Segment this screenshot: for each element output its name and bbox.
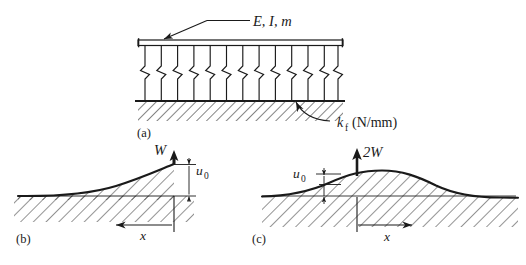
- stiffness-subscript: f: [345, 123, 349, 133]
- deflection-dimension-b: [174, 158, 196, 202]
- spring-element: [238, 46, 247, 102]
- spring-element: [206, 46, 215, 102]
- spring-element: [320, 46, 329, 102]
- axis-label-x-b: x: [139, 228, 146, 243]
- spring-element: [287, 46, 296, 102]
- panel-a-group: [135, 21, 345, 122]
- spring-element: [271, 46, 280, 102]
- axis-label-x-c: x: [383, 229, 390, 244]
- spring-element: [222, 46, 231, 102]
- spring-foundation-group: [141, 46, 343, 102]
- figure-canvas: E, I, m k f (N/mm) (a) W u 0 x (b) 2W u …: [0, 0, 526, 265]
- panel-label-b: (b): [16, 232, 31, 246]
- panel-label-c: (c): [252, 232, 266, 246]
- spring-element: [189, 46, 198, 102]
- spring-element: [334, 46, 343, 102]
- spring-element: [141, 46, 150, 102]
- load-arrow-b: [170, 150, 179, 165]
- spring-element: [255, 46, 264, 102]
- foundation-stiffness-label: k f (N/mm): [337, 115, 397, 133]
- panel-label-a: (a): [137, 126, 151, 140]
- deflection-label-b: u 0: [196, 163, 209, 181]
- load-label-b: W: [154, 142, 168, 158]
- panel-b-group: [14, 150, 196, 232]
- load-label-c: 2W: [363, 144, 384, 160]
- spring-element: [173, 46, 182, 102]
- figure-beam-on-elastic-foundation: E, I, m k f (N/mm) (a) W u 0 x (b) 2W u …: [0, 0, 526, 265]
- stiffness-symbol: k: [337, 115, 344, 130]
- deflection-subscript-c: 0: [301, 174, 306, 184]
- deflection-subscript-b: 0: [204, 171, 209, 181]
- panel-c-group: [258, 148, 520, 232]
- beam-element: [138, 38, 343, 47]
- spring-element: [157, 46, 166, 102]
- deflection-symbol-c: u: [293, 166, 300, 181]
- stiffness-units: (N/mm): [352, 115, 397, 131]
- deflection-label-c: u 0: [293, 166, 306, 184]
- deflection-symbol-b: u: [196, 163, 203, 178]
- spring-element: [304, 46, 313, 102]
- beam-property-label: E, I, m: [252, 13, 292, 29]
- beam-property-leader: [164, 21, 250, 40]
